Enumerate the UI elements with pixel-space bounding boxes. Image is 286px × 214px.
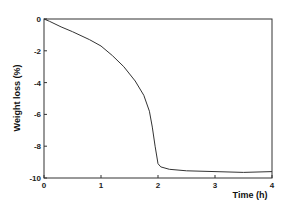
x-axis-ticks: 01234 [42,175,275,190]
y-tick-label: 0 [37,15,42,24]
x-axis-label: Time (h) [233,190,268,200]
y-tick-label: -2 [34,47,42,56]
chart: 01234 0-2-4-6-8-10 Time (h) Weight loss … [0,0,286,214]
x-tick-label: 0 [42,181,47,190]
y-tick-label: -4 [34,79,42,88]
y-tick-label: -10 [29,174,41,183]
plot-frame [44,19,272,178]
x-tick-label: 1 [99,181,104,190]
y-tick-label: -8 [34,142,42,151]
y-axis-label: Weight loss (%) [12,65,22,132]
y-tick-label: -6 [34,110,42,119]
x-tick-label: 4 [270,181,275,190]
weight-loss-curve [44,19,272,172]
x-tick-label: 3 [213,181,218,190]
x-tick-label: 2 [156,181,161,190]
